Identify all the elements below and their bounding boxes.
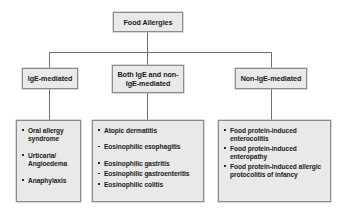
list-item: Eosinophilic gastritis: [98, 160, 199, 168]
list-item-label: Anaphylaxis: [28, 177, 76, 185]
list-item: Food protein-induced enteropathy: [224, 145, 326, 162]
list-item: Atopic dermatitis: [98, 127, 199, 135]
branch-node-ige-mediated: IgE-mediated: [22, 68, 78, 89]
root-node-food-allergies: Food Allergies: [113, 12, 183, 32]
connector-both-to-list: [147, 93, 148, 120]
list-item-label: Urticaria/ Angioedema: [28, 152, 76, 169]
list-item: Eosinophilic colitis: [98, 181, 199, 189]
list-item-label: Oral allergy syndrome: [28, 127, 76, 144]
list-item-label: Food protein-induced enteropathy: [230, 145, 326, 162]
connector-drop-middle: [147, 52, 148, 65]
list-item-label: Eosinophilic gastroenteritis: [104, 170, 199, 178]
list-item: Urticaria/ Angioedema: [22, 152, 76, 169]
food-allergy-classification-diagram: Food Allergies IgE-mediated Both IgE and…: [0, 0, 345, 215]
list-item-label: Eosinophilic colitis: [104, 181, 199, 189]
branch-node-both-ige-and-non-ige-mediated: Both IgE and non-IgE-mediated: [112, 65, 184, 93]
connector-nonige-to-list: [271, 89, 272, 120]
list-item-label: Atopic dermatitis: [104, 127, 199, 135]
list-ige-mediated-conditions: Oral allergy syndrome Urticaria/ Angioed…: [16, 120, 81, 202]
connector-root-down: [147, 32, 148, 52]
list-item: Food protein-induced enterocolitis: [224, 127, 326, 144]
connector-drop-left: [49, 52, 50, 68]
list-item: Eosinophilic gastroenteritis: [98, 170, 199, 178]
connector-ige-to-list: [49, 89, 50, 120]
list-non-ige-mediated-conditions: Food protein-induced enterocolitis Food …: [218, 120, 331, 202]
connector-drop-right: [271, 52, 272, 68]
list-mixed-mediated-conditions: Atopic dermatitis Eosinophilic esophagit…: [92, 120, 204, 202]
list-item-label: Food protein-induced allergic protocolit…: [230, 163, 326, 180]
list-item-label: Food protein-induced enterocolitis: [230, 127, 326, 144]
list-item-label: Eosinophilic gastritis: [104, 160, 199, 168]
list-item: Anaphylaxis: [22, 177, 76, 185]
list-item: Eosinophilic esophagitis: [98, 143, 199, 151]
list-item: Food protein-induced allergic protocolit…: [224, 163, 326, 180]
branch-node-non-ige-mediated: Non-IgE-mediated: [235, 68, 307, 89]
connector-horizontal-bus: [49, 52, 272, 53]
list-item: Oral allergy syndrome: [22, 127, 76, 144]
list-item-label: Eosinophilic esophagitis: [104, 143, 199, 151]
